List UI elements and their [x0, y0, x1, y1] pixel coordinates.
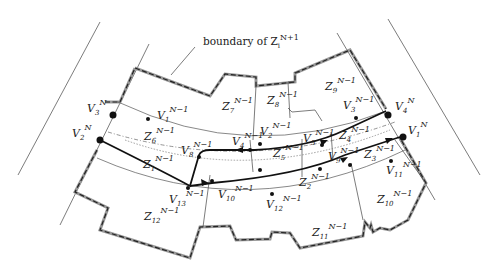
- label-Z8: Z8N−1: [266, 90, 298, 109]
- label-V3: V3N−1: [343, 95, 374, 114]
- label-V1N: V1N: [408, 120, 428, 139]
- label-V3N: V3N: [87, 98, 107, 117]
- label-Z6: Z6N−1: [143, 126, 175, 145]
- dot-V4N: [385, 112, 392, 119]
- label-V12: V12N−1: [266, 194, 302, 213]
- label-V4: V4N−1: [232, 131, 263, 150]
- label-Z7: Z7N−1: [221, 96, 253, 115]
- outer-boundary: [75, 47, 426, 258]
- zone-partition-diagram: boundary of ZiN+1 V3N V2N V4N V1N V1N−1 …: [0, 0, 491, 275]
- label-V2: V2N−1: [260, 121, 291, 140]
- label-Z12: Z12N−1: [143, 206, 179, 225]
- boundary-label: boundary of ZiN+1: [203, 33, 299, 50]
- label-V1: V1N−1: [157, 105, 188, 124]
- label-Z4: Z4N−1: [338, 125, 370, 144]
- label-Z10: Z10N−1: [376, 189, 412, 208]
- dot-V1N: [400, 134, 407, 141]
- label-V4N: V4N: [395, 96, 415, 115]
- label-Z9: Z9N−1: [324, 76, 356, 95]
- label-Z11: Z11N−1: [311, 222, 347, 241]
- label-Z5: Z5N−1: [272, 143, 304, 162]
- dot-V3N: [110, 112, 117, 119]
- label-V2N: V2N: [72, 123, 92, 142]
- label-V5: V5N−1: [303, 128, 334, 147]
- dot-V2N: [97, 137, 104, 144]
- label-V10: V10N−1: [218, 184, 254, 203]
